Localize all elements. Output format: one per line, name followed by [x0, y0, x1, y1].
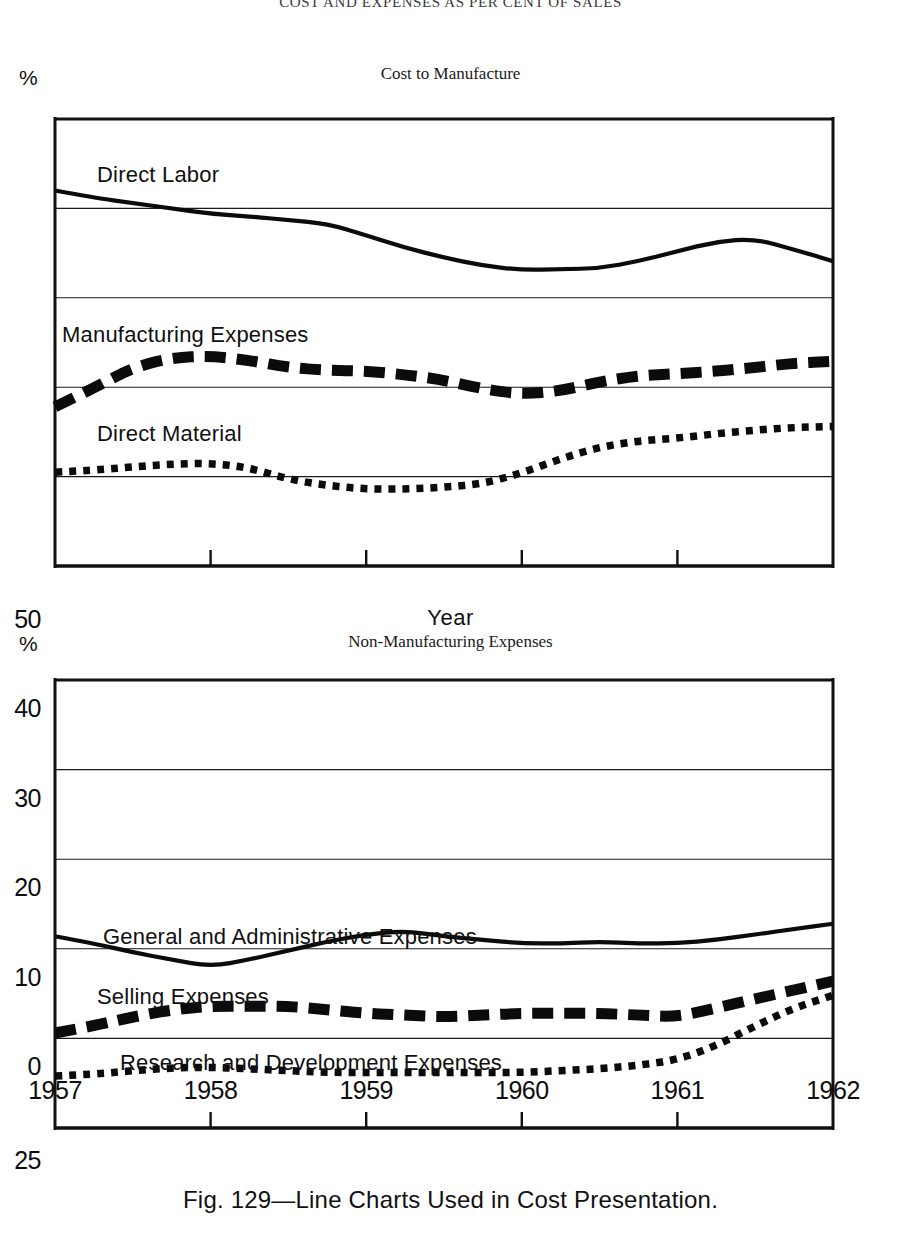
annotation-selling-expenses: Selling Expenses [97, 984, 269, 1010]
running-head: COST AND EXPENSES AS PER CENT OF SALES [0, 0, 901, 11]
chart2-unit-label: % [19, 632, 38, 656]
chart1-title: Cost to Manufacture [0, 64, 901, 84]
chart-cost-to-manufacture: Cost to Manufacture % 01020304050 195719… [0, 64, 901, 624]
chart1-x-axis-title: Year [0, 605, 901, 631]
chart1-unit-label: % [19, 66, 38, 90]
annotation-direct-labor: Direct Labor [97, 162, 219, 188]
chart2-title: Non-Manufacturing Expenses [0, 632, 901, 652]
annotation-manufacturing-expenses: Manufacturing Expenses [62, 322, 309, 348]
y-tick-label: 25 [0, 1146, 41, 1175]
annotation-direct-material: Direct Material [97, 421, 242, 447]
annotation-research-and-development-expenses: Research and Development Expenses [120, 1050, 502, 1076]
chart-non-manufacturing-expenses: Non-Manufacturing Expenses % 0510152025 … [0, 632, 901, 1172]
annotation-general-and-administrative-expenses: General and Administrative Expenses [103, 924, 477, 950]
figure-caption: Fig. 129—Line Charts Used in Cost Presen… [0, 1186, 901, 1214]
